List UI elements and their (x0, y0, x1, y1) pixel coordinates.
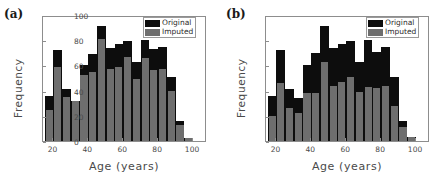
legend-swatch-imputed-icon (145, 29, 160, 36)
x-axis-tick-mark (380, 138, 381, 141)
legend-swatch-imputed-icon (368, 29, 383, 36)
panel-a-x-axis-label: Age (years) (42, 160, 206, 173)
x-axis-tick-label: 60 (340, 145, 350, 154)
x-axis-tick-mark (415, 138, 416, 141)
y-axis-tick-label: 80 (74, 37, 260, 46)
panel-b-legend-label-original: Original (385, 19, 414, 27)
panel-a-legend-label-original: Original (162, 19, 191, 27)
histogram-bar-imputed (115, 67, 122, 141)
x-axis-tick-label: 80 (375, 145, 385, 154)
legend-swatch-original-icon (145, 20, 160, 27)
histogram-bar-imputed (330, 86, 337, 141)
histogram-bar-imputed (312, 93, 319, 141)
histogram-bar-imputed (382, 86, 389, 141)
histogram-bar-imputed (277, 83, 284, 141)
y-axis-tick-mark (43, 142, 46, 143)
y-axis-tick-label: 0 (74, 138, 260, 147)
histogram-bar-imputed (286, 108, 293, 141)
panel-b-y-axis-label: Frequency (235, 58, 247, 118)
panel-b-x-axis-label: Age (years) (265, 160, 429, 173)
histogram-bar-imputed (46, 110, 53, 142)
y-axis-tick-mark (266, 16, 269, 17)
histogram-bar-imputed (321, 62, 328, 141)
panel-a-legend-item-imputed: Imputed (145, 28, 193, 36)
histogram-bar-imputed (63, 97, 70, 141)
y-axis-tick-mark (43, 66, 46, 67)
histogram-bar-imputed (365, 87, 372, 141)
x-axis-tick-mark (52, 138, 53, 141)
histogram-bar-imputed (303, 93, 310, 141)
histogram-bar-imputed (107, 69, 114, 141)
y-axis-tick-mark (266, 41, 269, 42)
histogram-bar-imputed (373, 88, 380, 141)
y-axis-tick-label: 20 (74, 112, 260, 121)
y-axis-tick-mark (43, 41, 46, 42)
histogram-bar-imputed (295, 113, 302, 141)
histogram-bar-imputed (159, 69, 166, 141)
panel-b: (b) 020406080100 20406080100 Age (years)… (223, 0, 446, 182)
x-axis-tick-mark (275, 138, 276, 141)
y-axis-tick-mark (43, 117, 46, 118)
y-axis-tick-mark (43, 92, 46, 93)
x-axis-tick-label: 20 (48, 145, 58, 154)
panel-a-legend-label-imputed: Imputed (162, 28, 193, 36)
y-axis-tick-label: 0 (0, 138, 37, 147)
x-axis-tick-mark (310, 138, 311, 141)
histogram-bar-imputed (391, 106, 398, 141)
y-axis-tick-mark (266, 66, 269, 67)
histogram-bar-imputed (80, 75, 87, 141)
panel-b-legend-item-original: Original (368, 19, 416, 27)
panel-a-legend: Original Imputed (143, 17, 196, 38)
panel-b-legend: Original Imputed (366, 17, 419, 38)
y-axis-tick-mark (266, 92, 269, 93)
y-axis-tick-mark (266, 117, 269, 118)
x-axis-tick-label: 20 (271, 145, 281, 154)
figure-two-panel-histograms: (a) 020406080100 20406080100 Age (years)… (0, 0, 446, 182)
y-axis-tick-label: 40 (74, 87, 260, 96)
legend-swatch-original-icon (368, 20, 383, 27)
histogram-bar-imputed (338, 82, 345, 141)
panel-a-y-axis-label: Frequency (12, 58, 24, 118)
x-axis-tick-mark (345, 138, 346, 141)
histogram-bar-imputed (399, 127, 406, 141)
histogram-bar-imputed (150, 70, 157, 141)
panel-b-legend-label-imputed: Imputed (385, 28, 416, 36)
y-axis-tick-mark (43, 16, 46, 17)
y-axis-tick-label: 100 (0, 12, 37, 21)
histogram-bar-imputed (347, 77, 354, 141)
x-axis-tick-label: 40 (306, 145, 316, 154)
histogram-bar-imputed (89, 72, 96, 141)
histogram-bar-imputed (356, 92, 363, 141)
panel-b-legend-item-imputed: Imputed (368, 28, 416, 36)
panel-a-legend-item-original: Original (145, 19, 193, 27)
y-axis-tick-label: 60 (74, 62, 260, 71)
x-axis-tick-label: 100 (408, 145, 422, 154)
histogram-bar-imputed (54, 67, 61, 141)
y-axis-tick-mark (266, 142, 269, 143)
y-axis-tick-label: 80 (0, 37, 37, 46)
